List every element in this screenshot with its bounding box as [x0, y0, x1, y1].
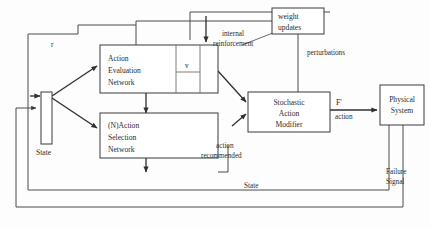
node-physical-system[interactable]: Physical System — [380, 85, 424, 125]
node-action-evaluation-network[interactable]: Action Evaluation Network v — [100, 45, 218, 93]
node-label-asn-line2: Selection — [108, 133, 136, 142]
edge-label-internal-reinforcement-line1: internal — [222, 30, 244, 38]
connector-state-to-asn — [52, 98, 97, 128]
node-label-asn-line1: (N)Action — [108, 121, 139, 130]
edge-label-failure-signal-line2: Signal — [386, 178, 404, 186]
connector-internal-reinforcement-arrow — [218, 71, 246, 102]
node-state-register[interactable]: State — [36, 92, 52, 157]
node-label-ps-line2: System — [391, 106, 413, 115]
node-label-wu-line2: updates — [278, 23, 301, 32]
edge-label-perturbations: perturbations — [307, 49, 345, 57]
edge-label-action-recommended-line1: action — [216, 142, 234, 150]
block-diagram-canvas: Action Evaluation Network v (N)Action Se… — [0, 0, 430, 227]
node-weight-updates[interactable]: weight updates — [272, 8, 324, 34]
v-label: v — [185, 61, 189, 70]
node-label-sam-line3: Modifier — [276, 120, 303, 129]
node-label-sam-line1: Stochastic — [273, 98, 305, 107]
state-register-label: State — [36, 148, 52, 157]
edge-label-f-prime: F' — [336, 98, 342, 107]
edge-label-failure-signal-line1: Failure — [386, 168, 406, 176]
edge-label-action-recommended-line2: recommended — [201, 152, 242, 160]
edge-label-r: r — [51, 41, 54, 49]
node-label-sam-line2: Action — [279, 109, 300, 118]
node-label-asn-line3: Network — [108, 145, 135, 154]
edge-label-action: action — [335, 113, 353, 121]
node-label-aen-line2: Evaluation — [108, 66, 141, 75]
node-label-wu-line1: weight — [278, 12, 300, 21]
connector-state-to-aen — [52, 66, 97, 96]
node-label-aen-line1: Action — [108, 54, 129, 63]
node-label-ps-line1: Physical — [389, 95, 415, 104]
node-stochastic-action-modifier[interactable]: Stochastic Action Modifier — [248, 92, 330, 132]
diagram-page: Action Evaluation Network v (N)Action Se… — [0, 0, 430, 227]
edge-label-state-bottom: State — [244, 182, 258, 190]
connector-r-signal — [28, 25, 136, 34]
edge-label-internal-reinforcement-line2: reinforcement — [213, 40, 253, 48]
node-label-aen-line3: Network — [108, 78, 135, 87]
